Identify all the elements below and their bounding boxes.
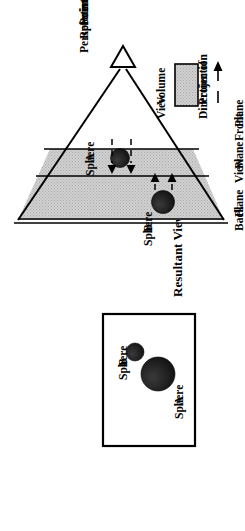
resultant-view-panel: Sphere A Sphere B Resultant View: [103, 212, 195, 446]
volume-sphere-a: [111, 149, 130, 168]
resultant-sphere-a: [141, 357, 175, 391]
legend: View Volume Direction of Projection: [155, 54, 223, 119]
front-plane-label-line2: Plane: [233, 100, 245, 127]
volume-sphere-b-label-line2: B: [142, 224, 154, 232]
rotated-figure-canvas: Sphere A Sphere B Resultant View: [0, 0, 245, 531]
perspective-reference-point-arrow: [111, 46, 135, 67]
volume-sphere-b: [152, 191, 175, 214]
back-plane-label-line2: Plane: [233, 190, 245, 217]
legend-view-volume-swatch: [175, 64, 198, 106]
legend-view-volume-label-line2: Volume: [155, 68, 167, 105]
volume-sphere-a-label-line2: A: [84, 153, 96, 162]
view-plane-label-line2: Plane: [233, 142, 245, 169]
prp-label-line3: Point: [78, 0, 90, 25]
resultant-view-caption: Resultant View: [170, 212, 185, 297]
figure-root: Sphere A Sphere B Resultant View: [0, 0, 245, 531]
legend-dash-arrow-head: [214, 61, 223, 71]
resultant-sphere-b-label-line2: B: [117, 358, 129, 366]
resultant-sphere-a-label-line2: A: [173, 396, 185, 405]
view-volume-diagram: Sphere B Sphere A Back Plane View Plane …: [14, 0, 245, 246]
figure-svg: Sphere A Sphere B Resultant View: [0, 0, 245, 531]
legend-direction-label-line2: Projection: [197, 54, 210, 105]
legend-direction-swatch: [214, 61, 223, 103]
